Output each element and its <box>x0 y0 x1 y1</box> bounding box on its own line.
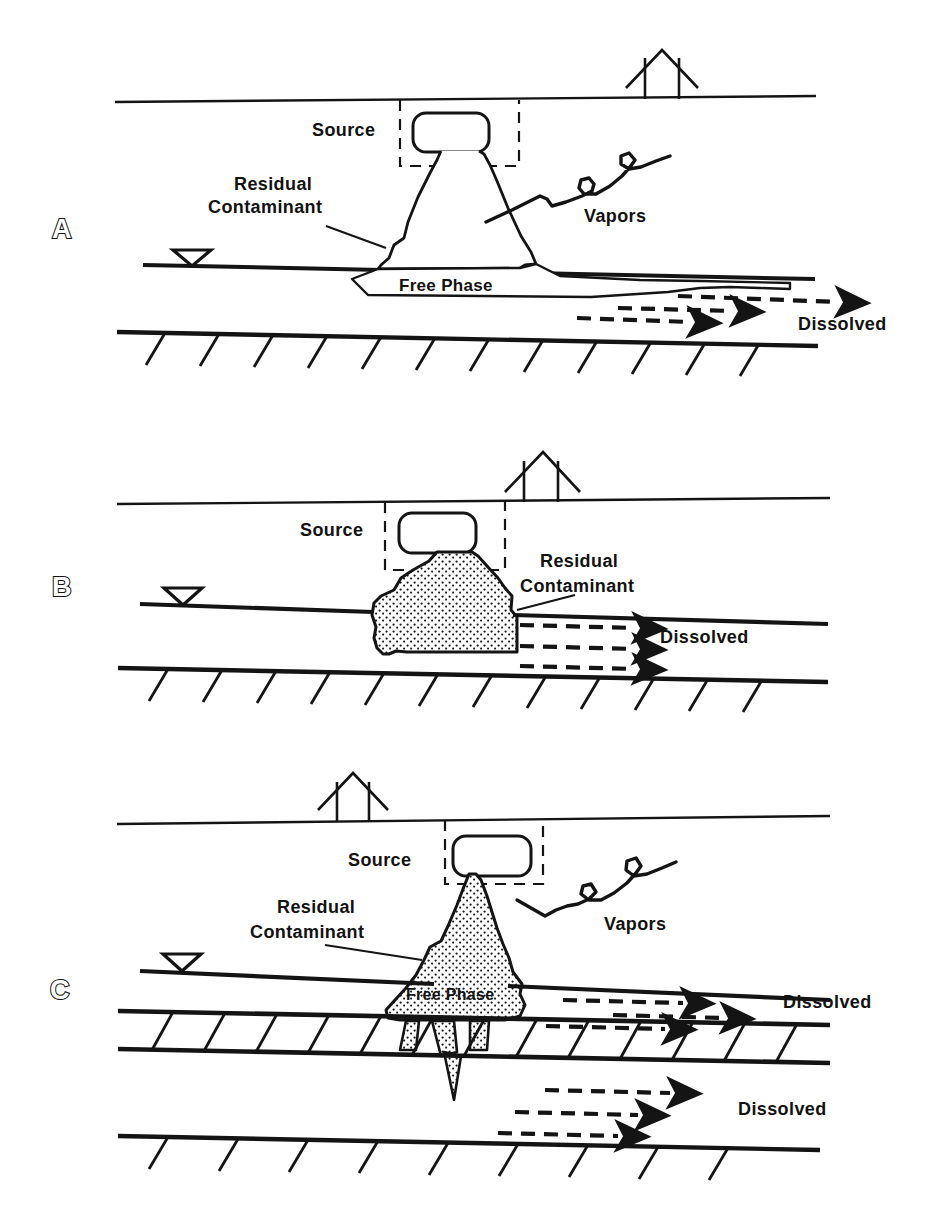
residual-label-a-line2: Contaminant <box>208 197 322 217</box>
free-phase-label-a: Free Phase <box>399 276 493 295</box>
diagram-svg: A <box>0 0 947 1206</box>
panel-letter-a: A <box>52 214 73 244</box>
residual-label-a-line1: Residual <box>234 174 312 194</box>
free-phase-label-c: Free Phase <box>406 986 494 1003</box>
residual-label-b-line2: Contaminant <box>520 576 634 596</box>
source-label-a: Source <box>312 120 375 140</box>
residual-label-b-line1: Residual <box>540 551 618 571</box>
panel-letter-c: C <box>50 975 71 1005</box>
source-label-c: Source <box>348 850 411 870</box>
residual-label-c-line2: Contaminant <box>250 922 364 942</box>
figure-canvas: A <box>0 0 947 1206</box>
dissolved-label-c-lower: Dissolved <box>738 1099 827 1119</box>
source-label-b: Source <box>300 520 363 540</box>
residual-label-c-line1: Residual <box>277 897 355 917</box>
underground-storage-tank-a <box>413 113 489 152</box>
panel-letter-b: B <box>52 572 73 602</box>
vapors-label-a: Vapors <box>584 206 646 226</box>
underground-storage-tank-c <box>453 836 531 876</box>
underground-storage-tank-b <box>399 513 476 553</box>
vapors-label-c: Vapors <box>604 914 666 934</box>
dissolved-label-b: Dissolved <box>660 627 749 647</box>
dissolved-label-c-upper: Dissolved <box>783 992 872 1012</box>
dissolved-label-a: Dissolved <box>798 314 887 334</box>
